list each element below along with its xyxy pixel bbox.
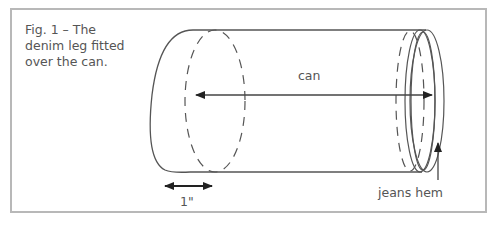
dashed-fold-lines	[185, 30, 424, 172]
one-inch-label: 1"	[180, 194, 194, 209]
jeans-hem-label: jeans hem	[378, 185, 443, 200]
can-label: can	[298, 68, 320, 83]
can-body	[150, 30, 426, 172]
